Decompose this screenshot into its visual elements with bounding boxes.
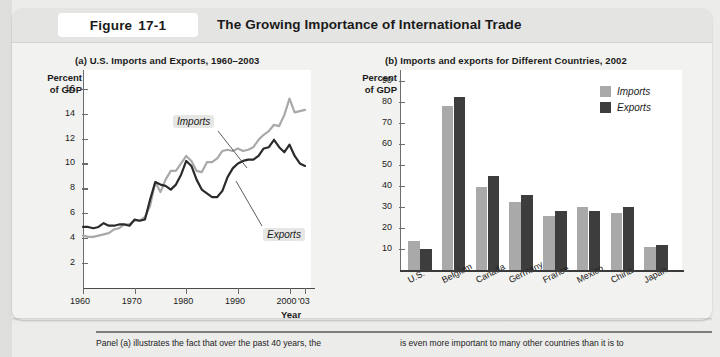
figure-title: The Growing Importance of International …: [217, 17, 522, 32]
panel-a-x-tick-label: 2000: [277, 296, 297, 306]
panel-a-y-tick: [82, 89, 88, 90]
bar-belgium-imports: [442, 106, 454, 270]
panel-b-y-tick: [399, 81, 405, 82]
panel-b-y-tick-label: 20: [370, 222, 392, 232]
panel-b-y-tick: [399, 186, 405, 187]
panel-a-y-tick-label: 4: [53, 232, 75, 242]
panel-a-y-tick-label: 14: [53, 108, 75, 118]
bar-france-imports: [543, 216, 555, 270]
panel-b-x-axis: [400, 270, 684, 272]
figure-shadow: [12, 318, 712, 321]
panel-b-y-tick: [399, 228, 405, 229]
panel-b-y-tick: [399, 144, 405, 145]
bar-japan-imports: [644, 247, 656, 270]
legend-swatch-imports: [600, 86, 611, 97]
panel-b-y-tick: [399, 207, 405, 208]
panel-a-y-tick: [82, 114, 88, 115]
bar-us-imports: [408, 241, 420, 270]
bar-canada-exports: [488, 176, 500, 270]
footer-text-left: Panel (a) illustrates the fact that over…: [96, 338, 388, 349]
panel-a-y-axis: [83, 70, 84, 288]
legend-item-exports: Exports: [600, 102, 651, 113]
panel-a-x-tick: [186, 288, 187, 294]
panel-b-y-tick-label: 60: [370, 138, 392, 148]
bar-china-imports: [611, 213, 623, 270]
panel-a-x-tick-label: 1960: [70, 296, 90, 306]
panel-b-y-tick-label: 70: [370, 117, 392, 127]
panel-a-plot-area: [83, 70, 311, 288]
panel-b-y-axis: [400, 70, 401, 270]
panel-a-y-tick: [82, 238, 88, 239]
panel-a-x-tick-label: '03: [298, 296, 310, 306]
bar-germany-imports: [509, 202, 521, 270]
panel-a-exports-label: Exports: [263, 228, 305, 241]
panel-b-y-caption-line: of GDP: [345, 84, 397, 96]
panel-b-y-tick-label: 40: [370, 180, 392, 190]
bar-canada-imports: [476, 187, 488, 270]
bar-belgium-exports: [454, 97, 466, 270]
panel-a-imports-label: Imports: [173, 115, 214, 128]
legend-item-imports: Imports: [600, 86, 651, 97]
panel-b-y-tick: [399, 165, 405, 166]
panel-b-y-tick-label: 50: [370, 159, 392, 169]
panel-b-y-tick: [399, 249, 405, 250]
panel-a-y-tick-label: 2: [53, 257, 75, 267]
panel-a-x-axis: [83, 288, 315, 289]
panel-b-y-tick-label: 80: [370, 96, 392, 106]
panel-a-title: (a) U.S. Imports and Exports, 1960–2003: [75, 55, 259, 66]
panel-b-y-tick: [399, 102, 405, 103]
legend-label-imports: Imports: [617, 86, 650, 97]
panel-a-x-tick: [135, 288, 136, 294]
panel-a-y-tick-label: 16: [53, 83, 75, 93]
panel-a-x-tick-label: 1970: [122, 296, 142, 306]
panel-b-y-tick-label: 10: [370, 243, 392, 253]
panel-a-x-tick: [83, 288, 84, 294]
panel-a-x-tick: [290, 288, 291, 294]
page-gutter: [0, 0, 12, 357]
bar-mexico-exports: [589, 211, 601, 270]
panel-a-y-tick: [82, 163, 88, 164]
bar-us-exports: [420, 249, 432, 270]
panel-a-y-tick-label: 12: [53, 133, 75, 143]
figure-tag-number: 17-1: [138, 18, 166, 33]
figure-tag-word: Figure: [90, 18, 132, 33]
panel-a-y-tick: [82, 139, 88, 140]
bar-germany-exports: [521, 195, 533, 270]
legend-swatch-exports: [600, 102, 611, 113]
panel-a-x-tick-label: 1980: [173, 296, 193, 306]
panel-b-title: (b) Imports and exports for Different Co…: [385, 55, 627, 66]
panel-b-legend: ImportsExports: [600, 86, 651, 118]
bar-mexico-imports: [577, 207, 589, 270]
panel-a-x-tick: [305, 288, 306, 294]
panel-a-y-tick-label: 10: [53, 157, 75, 167]
legend-label-exports: Exports: [617, 102, 651, 113]
bar-china-exports: [623, 207, 635, 270]
panel-a-x-tick: [238, 288, 239, 294]
panel-a-y-tick: [82, 188, 88, 189]
panel-a-y-tick: [82, 263, 88, 264]
panel-b-y-tick: [399, 123, 405, 124]
panel-b-y-tick-label: 90: [370, 75, 392, 85]
bar-france-exports: [555, 211, 567, 270]
panel-a-y-tick-label: 6: [53, 207, 75, 217]
panel-a-y-tick-label: 8: [53, 182, 75, 192]
figure-tag: Figure 17-1: [58, 13, 198, 37]
panel-a-x-tick-label: 1990: [225, 296, 245, 306]
panel-a-y-tick: [82, 213, 88, 214]
footer-text-right: is even more important to many other cou…: [400, 338, 712, 349]
panel-b-y-tick-label: 30: [370, 201, 392, 211]
footer-rule: [96, 331, 712, 333]
